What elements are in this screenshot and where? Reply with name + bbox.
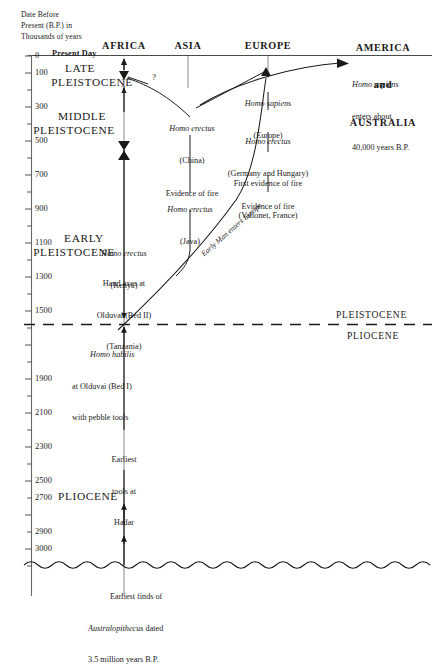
america-arrowhead <box>337 59 349 69</box>
event-australopithecus: Earliest finds of Australopithecus dated… <box>88 571 163 668</box>
tick-label-900: 900 <box>35 204 48 214</box>
axis-caption: Date Before Present (B.P.) in Thousands … <box>21 9 82 42</box>
event-hs-america-line3: 40,000 years B.P. <box>352 143 409 154</box>
tick-label-1500: 1500 <box>35 306 52 316</box>
event-he-java-line1: Homo erectus <box>167 205 212 216</box>
tick-label-2100: 2100 <box>35 408 52 418</box>
event-he-china-line2: (China) <box>166 156 219 167</box>
event-hs-america-line1: Homo sapiens <box>352 80 409 91</box>
event-first-fire-line1: First evidence of fire <box>234 179 302 190</box>
column-header-europe: EUROPE <box>245 40 292 52</box>
event-hand-axes-line2: Olduvai (Bed II) <box>97 311 152 322</box>
present-day-label: Present Day <box>52 49 97 59</box>
event-australopithecus-line1: Earliest finds of <box>88 592 163 603</box>
europe-entry-arrowhead <box>261 67 271 76</box>
wavy-base-line <box>24 562 430 569</box>
tick-label-300: 300 <box>35 102 48 112</box>
event-he-germany-line1: Homo erectus <box>228 137 308 148</box>
tick-label-1900: 1900 <box>35 374 52 384</box>
epoch-middle-pleistocene-line1: MIDDLE <box>58 110 106 123</box>
column-header-asia: ASIA <box>174 40 201 52</box>
event-australopithecus-line2: Australopithecus dated <box>88 624 163 635</box>
event-he-china-line1: Homo erectus <box>166 124 219 135</box>
tick-label-500: 500 <box>35 136 48 146</box>
epoch-middle-pleistocene-line2: PLEISTOCENE <box>33 124 115 137</box>
epoch-late-pleistocene-line1: LATE <box>65 62 95 75</box>
event-hand-axes-line1: Hand axes at <box>97 279 152 290</box>
tick-label-0: 0 <box>35 51 39 61</box>
boundary-label-pliocene: PLIOCENE <box>347 330 399 341</box>
tick-label-2500: 2500 <box>35 476 52 486</box>
event-earliest-tools: Earliest tools at Hadar <box>111 434 136 550</box>
event-hs-america-line2: enters about <box>352 112 409 123</box>
tick-label-3000: 3000 <box>35 544 52 554</box>
tick-label-100: 100 <box>35 68 48 78</box>
event-first-fire: First evidence of fire (Vallonet, France… <box>234 158 302 242</box>
epoch-pliocene-left: PLIOCENE <box>58 490 118 503</box>
australopithecus-genus: Australopithecus <box>88 624 144 633</box>
event-h-habilis-line3: with pebble tools <box>72 413 134 424</box>
column-header-africa: AFRICA <box>102 40 146 52</box>
question-mark-asia-route: ? <box>152 72 156 83</box>
event-earliest-tools-line3: Hadar <box>111 518 136 529</box>
event-h-habilis: Homo habilis at Olduvai (Bed I) with peb… <box>72 329 134 445</box>
event-hs-europe-line1: Homo sapiens <box>245 99 292 110</box>
event-earliest-tools-line1: Earliest <box>111 455 136 466</box>
tick-label-2900: 2900 <box>35 527 52 537</box>
boundary-label-pleistocene: PLEISTOCENE <box>336 309 407 320</box>
event-hs-america: Homo sapiens enters about 40,000 years B… <box>352 59 409 175</box>
tick-label-2700: 2700 <box>35 493 52 503</box>
tick-label-2300: 2300 <box>35 442 52 452</box>
tick-label-1300: 1300 <box>35 272 52 282</box>
tick-label-700: 700 <box>35 170 48 180</box>
event-h-habilis-line2: at Olduvai (Bed I) <box>72 382 134 393</box>
epoch-early-pleistocene-line1: EARLY <box>64 232 104 245</box>
event-h-habilis-line1: Homo habilis <box>72 350 134 361</box>
america-line: AMERICA <box>350 42 416 54</box>
event-australopithecus-line3: 3.5 million years B.P. <box>88 655 163 666</box>
question-mark-africa: ? <box>121 84 125 95</box>
event-earliest-tools-line2: tools at <box>111 487 136 498</box>
